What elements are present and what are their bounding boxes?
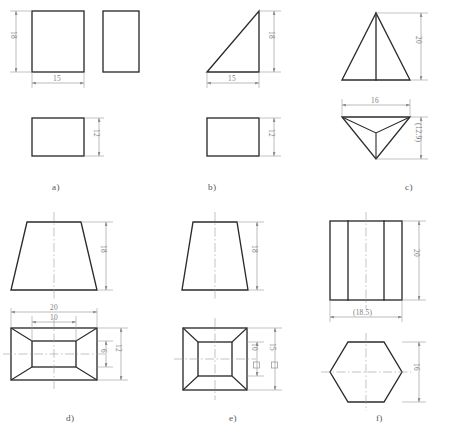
dim-across-flats-f: 16 — [412, 363, 421, 371]
figure-e: 18 10 15 — [160, 200, 320, 410]
figure-f: 20 (18.5) 16 — [310, 200, 452, 410]
dim-height-d: 18 — [99, 245, 108, 253]
shape-top-inner-edges — [342, 117, 410, 159]
shape-top-rect — [32, 118, 84, 156]
dim-bottom-depth-d: 12 — [114, 344, 123, 352]
dim-top-square-e: 10 — [250, 343, 259, 351]
dim-depth-a: 12 — [92, 129, 101, 137]
figure-caption-c: c) — [405, 182, 413, 192]
figure-a: 18 15 12 — [0, 0, 160, 185]
figure-c: 20 16 (12.9) — [300, 0, 452, 185]
figure-d: 18 20 10 6 12 — [0, 200, 160, 410]
dim-across-corners-f: (18.5) — [353, 308, 372, 317]
dim-height-f: 20 — [412, 249, 421, 257]
figure-caption-f: f) — [376, 413, 383, 423]
dim-bottom-width-d: 20 — [50, 303, 58, 312]
figure-caption-e: e) — [229, 413, 237, 423]
dim-width-a: 15 — [53, 74, 61, 83]
figure-caption-d: d) — [66, 413, 74, 423]
square-symbol-top-e — [254, 362, 260, 368]
dim-height-b: 18 — [267, 31, 276, 39]
dim-depth-b: 12 — [267, 129, 276, 137]
square-symbol-bottom-e — [272, 362, 278, 368]
dim-top-width-d: 10 — [50, 313, 58, 322]
shape-front-triangle — [207, 11, 259, 72]
dim-base-width-c: 16 — [371, 96, 379, 105]
dim-height-c: 20 — [414, 36, 423, 44]
dim-bottom-square-e: 15 — [268, 343, 277, 351]
dim-width-b: 15 — [228, 74, 236, 83]
figure-caption-a: a) — [52, 182, 60, 192]
shape-side-rect — [103, 11, 139, 72]
figure-b: 18 15 12 — [155, 0, 310, 185]
figure-caption-b: b) — [208, 182, 216, 192]
dim-height-e: 18 — [250, 245, 259, 253]
dim-height-a: 18 — [9, 31, 18, 39]
drawing-sheet: 18 15 12 a) 18 15 12 b) — [0, 0, 452, 436]
shape-top-rect — [207, 118, 259, 156]
dim-top-depth-d: 6 — [99, 349, 108, 353]
shape-front-rect — [32, 11, 84, 72]
dim-depth-c: (12.9) — [414, 123, 423, 142]
